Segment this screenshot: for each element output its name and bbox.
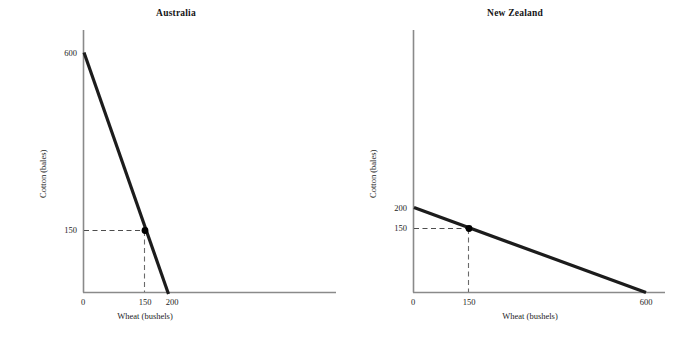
ppf-line-australia (84, 53, 169, 295)
x-tick-label-0-newzealand: 0 (402, 297, 424, 307)
x-axis-title-newzealand: Wheat (bushels) (502, 311, 557, 321)
x-tick-label-200-australia: 200 (161, 297, 183, 307)
y-tick-label-600-australia: 600 (44, 48, 77, 58)
y-axis-title-australia: Cotton (bales) (38, 150, 48, 198)
x-tick-label-150-australia: 150 (134, 297, 156, 307)
x-tick-label-600-newzealand: 600 (635, 297, 657, 307)
chart-panel-australia: Australia 600 150 0 150 200 Cotton (bale… (0, 0, 348, 341)
y-tick-label-150-australia: 150 (44, 225, 77, 235)
y-tick-label-200-newzealand: 200 (374, 203, 407, 213)
x-tick-label-150-newzealand: 150 (458, 297, 480, 307)
y-axis-title-newzealand: Cotton (bales) (368, 150, 378, 198)
ppf-line-newzealand (414, 208, 646, 293)
production-point-newzealand (466, 225, 473, 232)
chart-panel-newzealand: New Zealand 200 150 0 150 600 Cotton (ba… (347, 0, 695, 341)
production-point-australia (142, 227, 149, 234)
figure-two-ppf-charts: Australia 600 150 0 150 200 Cotton (bale… (0, 0, 695, 341)
y-tick-label-150-newzealand: 150 (374, 223, 407, 233)
plot-area-newzealand (347, 0, 695, 341)
x-axis-title-australia: Wheat (bushels) (117, 311, 172, 321)
x-tick-label-0-australia: 0 (72, 297, 94, 307)
